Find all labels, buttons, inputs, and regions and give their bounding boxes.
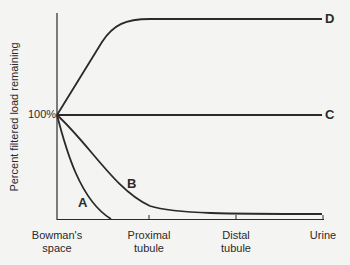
y-tick-100: 100% [28,108,56,120]
x-label-urine: Urine [310,229,336,242]
x-label-line: Bowman's [32,229,82,242]
x-label-bowmans: Bowman's space [32,229,82,255]
y-axis-label: Percent filtered load remaining [8,17,20,217]
x-label-line: Urine [310,229,336,242]
x-label-distal: Distal tubule [221,229,251,255]
x-label-line: tubule [128,242,171,255]
curve-label-a: A [78,195,87,210]
x-label-proximal: Proximal tubule [128,229,171,255]
curve-label-d: D [325,11,334,26]
chart-plot [0,0,350,265]
x-label-line: space [32,242,82,255]
x-label-line: Proximal [128,229,171,242]
curve-label-c: C [325,107,334,122]
curve-label-b: B [127,176,136,191]
curve-d [57,19,322,115]
x-label-line: tubule [221,242,251,255]
curve-b [57,115,322,214]
x-label-line: Distal [221,229,251,242]
